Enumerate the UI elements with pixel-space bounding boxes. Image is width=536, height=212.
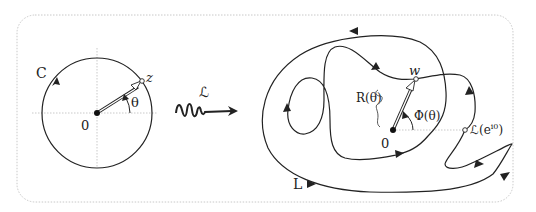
label-l-e-i0-close: ) [498, 123, 503, 137]
label-transform: ℒ [199, 85, 209, 99]
label-r-theta: R(θ) [356, 92, 382, 104]
figure: C z 0 θ ℒ w R(θ) Φ(θ) 0 ℒ(ei0) L [0, 0, 536, 212]
radius-right-arrowhead-icon [406, 80, 415, 91]
label-w: w [409, 64, 420, 77]
point-l-e-i0 [463, 128, 468, 133]
label-origin-right: 0 [381, 137, 389, 150]
label-l: L [293, 177, 302, 191]
theta-arc [126, 98, 130, 113]
origin-left [94, 110, 100, 116]
right-panel [262, 27, 512, 192]
transform-arrow [176, 104, 238, 116]
label-z: z [146, 71, 153, 84]
phi-arrow-icon [402, 111, 409, 119]
origin-right [390, 127, 396, 133]
curve-l [262, 36, 512, 192]
l-arrow-bottom-inner-icon [395, 150, 404, 158]
label-theta-left: θ [131, 96, 139, 109]
label-l-e-i0: ℒ(ei0) [470, 123, 503, 136]
l-arrow-left-icon [283, 103, 291, 112]
label-l-e-i0-base: ℒ(e [470, 123, 491, 137]
l-arrow-bottom-right-icon [500, 172, 510, 181]
label-phi-theta: Φ(θ) [414, 110, 440, 122]
circle-arrow-icon [52, 77, 60, 86]
l-arrow-top-icon [349, 27, 358, 35]
left-panel [32, 48, 158, 168]
label-origin-left: 0 [81, 119, 89, 132]
figure-canvas [0, 0, 536, 212]
label-c: C [36, 66, 47, 80]
point-z [140, 79, 145, 84]
